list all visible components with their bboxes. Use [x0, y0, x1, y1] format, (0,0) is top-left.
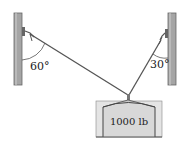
right-wall: [168, 13, 176, 85]
left-wall: [14, 13, 22, 85]
weight-label: 1000 lb: [110, 116, 148, 127]
diagram-canvas: 60° 30° 1000 lb: [0, 0, 182, 143]
left-angle-arc: [22, 43, 45, 60]
right-angle-label: 30°: [150, 58, 170, 71]
left-bracket-icon: [22, 27, 34, 41]
hook-icon: [127, 94, 130, 100]
left-angle-label: 60°: [30, 60, 50, 73]
